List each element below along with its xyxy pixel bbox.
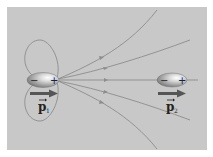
svg-text:2: 2 — [174, 107, 178, 114]
plus-sign: + — [50, 75, 58, 86]
minus-sign: − — [30, 75, 38, 86]
minus-sign: − — [160, 75, 168, 86]
dipole-field-diagram: − + p 1 − + p 2 — [0, 0, 213, 157]
svg-text:1: 1 — [46, 107, 50, 114]
plus-sign: + — [178, 75, 186, 86]
